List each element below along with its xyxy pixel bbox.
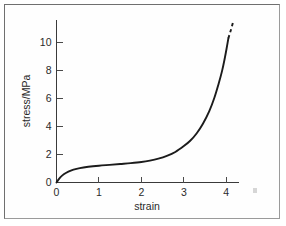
x-tick-label: 3 xyxy=(181,186,187,198)
x-axis-tick-labels: 01234 xyxy=(54,186,230,198)
stress-strain-curve xyxy=(57,38,229,182)
y-tick-label: 0 xyxy=(46,176,52,188)
y-axis-label: stress/MPa xyxy=(20,75,32,128)
y-tick-label: 8 xyxy=(46,64,52,76)
x-axis-label: strain xyxy=(134,200,160,212)
stress-strain-curve-extrapolation xyxy=(228,22,233,38)
y-axis-ticks xyxy=(57,42,63,154)
x-tick-label: 1 xyxy=(96,186,102,198)
y-tick-label: 10 xyxy=(40,36,52,48)
x-axis-ticks xyxy=(99,177,226,183)
y-axis-tick-labels: 0246810 xyxy=(40,36,52,188)
x-tick-label: 0 xyxy=(54,186,60,198)
x-tick-label: 2 xyxy=(138,186,144,198)
y-tick-label: 2 xyxy=(46,148,52,160)
scan-artifact xyxy=(253,188,257,193)
x-tick-label: 4 xyxy=(223,186,229,198)
stress-strain-chart: 0246810 01234 strain stress/MPa xyxy=(0,0,286,226)
figure-container: 0246810 01234 strain stress/MPa xyxy=(0,0,286,226)
y-tick-label: 6 xyxy=(46,92,52,104)
y-tick-label: 4 xyxy=(46,120,52,132)
